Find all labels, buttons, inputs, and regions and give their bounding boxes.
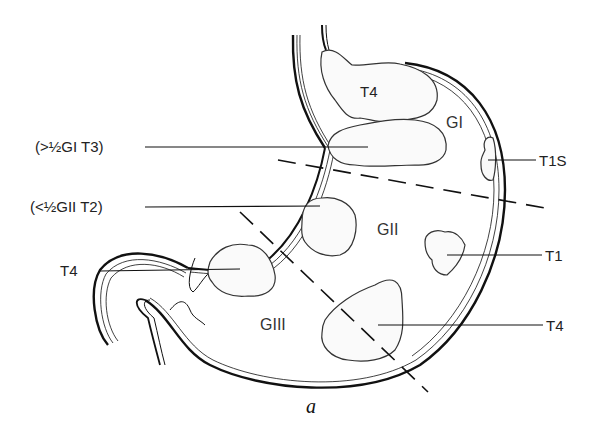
diagram-svg: GI GII GIII T4 (>½GI T3) (<½GII T2) T4 T…	[0, 0, 607, 439]
tumor-pylorus-t4	[208, 244, 275, 296]
label-t3: (>½GI T3)	[35, 138, 104, 155]
tumor-fundus-t4	[321, 50, 437, 122]
region-label-gi: GI	[446, 114, 463, 131]
region-label-giii: GIII	[260, 316, 286, 333]
region-label-gii: GII	[377, 221, 398, 238]
tumor-t3	[328, 119, 446, 166]
tumors	[208, 50, 496, 361]
tumor-t1	[425, 231, 465, 275]
label-t1: T1	[545, 247, 563, 264]
label-right-t4: T4	[546, 317, 564, 334]
label-t2: (<½GII T2)	[30, 198, 103, 215]
label-left-t4: T4	[60, 262, 78, 279]
tumor-t1s	[481, 137, 496, 180]
stomach-diagram: GI GII GIII T4 (>½GI T3) (<½GII T2) T4 T…	[0, 0, 607, 439]
tumor-antrum-t4	[322, 280, 403, 361]
figure-caption: a	[306, 395, 316, 417]
label-fundus-t4: T4	[360, 83, 378, 100]
label-t1s: T1S	[539, 152, 567, 169]
leader-t2	[145, 206, 320, 207]
